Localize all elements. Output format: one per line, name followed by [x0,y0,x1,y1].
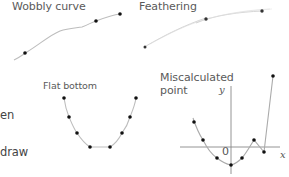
wobbly-curve [14,12,122,60]
miscalculated-plot [180,74,280,174]
feathering-curve [144,9,273,49]
flat-bottom-curve [62,96,138,149]
diagram-canvas [0,0,289,177]
